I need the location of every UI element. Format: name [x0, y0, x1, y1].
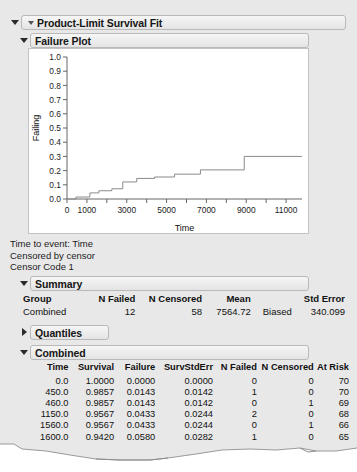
combined-title: Combined — [35, 347, 86, 359]
combined-cell-failure: 0.0433 — [114, 409, 155, 420]
disclosure-triangle-icon[interactable] — [19, 278, 30, 289]
summary-cell-n-failed: 12 — [85, 306, 136, 317]
summary-cell-bias-note: Biased — [251, 306, 292, 317]
combined-cell-survival: 0.9567 — [69, 420, 115, 431]
summary-header-mean: Mean — [202, 293, 251, 306]
summary-header-n-censored: N Censored — [135, 293, 202, 306]
table-row: 1560.00.95670.04330.02440166 — [23, 420, 349, 431]
table-row: 1150.00.95670.04330.02442068 — [23, 409, 349, 420]
combined-cell-n-censored: 1 — [257, 397, 314, 408]
svg-text:0.9: 0.9 — [49, 66, 61, 76]
section-combined[interactable]: Combined — [19, 345, 309, 360]
svg-text:Failing: Failing — [31, 115, 41, 142]
section-summary[interactable]: Summary — [19, 276, 309, 291]
combined-table-body: 0.01.00000.00000.00000070450.00.98570.01… — [23, 375, 349, 442]
combined-cell-n-censored: 0 — [257, 386, 314, 397]
summary-title: Summary — [35, 278, 82, 290]
combined-cell-survival: 1.0000 — [69, 375, 115, 386]
svg-text:0: 0 — [65, 205, 70, 215]
svg-text:0.0: 0.0 — [49, 194, 61, 204]
svg-text:11000: 11000 — [275, 205, 298, 215]
disclosure-triangle-icon[interactable] — [19, 347, 30, 358]
disclosure-triangle-icon[interactable] — [10, 17, 21, 28]
svg-text:0.2: 0.2 — [49, 166, 61, 176]
table-row: 1600.00.94200.05800.02821065 — [23, 431, 349, 442]
combined-cell-at-risk: 65 — [314, 431, 349, 442]
section-product-limit-survival-fit[interactable]: Product-Limit Survival Fit — [10, 15, 346, 30]
combined-cell-n-censored: 0 — [257, 431, 314, 442]
combined-cell-survival: 0.9857 — [69, 386, 115, 397]
combined-cell-failure: 0.0000 — [114, 375, 155, 386]
combined-header-row: TimeSurvivalFailureSurvStdErrN FailedN C… — [23, 362, 349, 375]
table-row: 460.00.98570.01430.01420169 — [23, 397, 349, 408]
failure-plot-title-bar[interactable]: Failure Plot — [30, 33, 309, 48]
combined-cell-at-risk: 69 — [314, 397, 349, 408]
combined-cell-time: 450.0 — [23, 386, 69, 397]
caption-censor-code: Censor Code 1 — [10, 261, 95, 273]
combined-header-at-risk: At Risk — [314, 362, 349, 375]
summary-table: Group N Failed N Censored Mean Std Error… — [23, 293, 345, 317]
summary-header-group: Group — [23, 293, 85, 306]
combined-cell-at-risk: 66 — [314, 420, 349, 431]
svg-text:0.7: 0.7 — [49, 95, 61, 105]
table-row: Combined 12 58 7564.72 Biased 340.099 — [23, 306, 345, 317]
combined-cell-at-risk: 68 — [314, 409, 349, 420]
combined-cell-n-failed: 0 — [213, 420, 257, 431]
svg-text:0.3: 0.3 — [49, 152, 61, 162]
failure-plot-title: Failure Plot — [35, 35, 91, 47]
disclosure-triangle-icon[interactable] — [19, 327, 30, 338]
summary-title-bar[interactable]: Summary — [30, 276, 309, 291]
summary-header-std-error: Std Error — [292, 293, 345, 306]
secondary-disclosure-triangle-icon[interactable] — [26, 17, 37, 28]
combined-cell-time: 1150.0 — [23, 409, 69, 420]
svg-text:Time: Time — [175, 223, 195, 233]
summary-cell-mean: 7564.72 — [202, 306, 251, 317]
combined-cell-survstderr: 0.0244 — [155, 420, 213, 431]
combined-cell-n-censored: 0 — [257, 375, 314, 386]
section-quantiles[interactable]: Quantiles — [19, 325, 109, 340]
combined-header-n-censored: N Censored — [257, 362, 314, 375]
combined-cell-survival: 0.9420 — [69, 431, 115, 442]
svg-text:0.5: 0.5 — [49, 123, 61, 133]
combined-cell-at-risk: 70 — [314, 386, 349, 397]
combined-cell-survstderr: 0.0244 — [155, 409, 213, 420]
combined-header-time: Time — [23, 362, 69, 375]
torn-paper-edge — [0, 438, 357, 472]
table-row: 0.01.00000.00000.00000070 — [23, 375, 349, 386]
svg-text:3000: 3000 — [117, 205, 136, 215]
summary-cell-group: Combined — [23, 306, 85, 317]
svg-text:0.6: 0.6 — [49, 109, 61, 119]
summary-cell-std-error: 340.099 — [292, 306, 345, 317]
combined-cell-survival: 0.9567 — [69, 409, 115, 420]
combined-header-failure: Failure — [114, 362, 155, 375]
jmp-report-panel: Product-Limit Survival Fit Failure Plot … — [0, 0, 357, 472]
svg-text:0.1: 0.1 — [49, 180, 61, 190]
svg-text:1000: 1000 — [78, 205, 97, 215]
svg-text:5000: 5000 — [157, 205, 176, 215]
summary-cell-n-censored: 58 — [135, 306, 202, 317]
combined-header-survival: Survival — [69, 362, 115, 375]
summary-header-row: Group N Failed N Censored Mean Std Error — [23, 293, 345, 306]
combined-cell-survstderr: 0.0282 — [155, 431, 213, 442]
combined-cell-n-failed: 0 — [213, 375, 257, 386]
combined-cell-failure: 0.0143 — [114, 397, 155, 408]
svg-text:7000: 7000 — [197, 205, 216, 215]
section-title-bar[interactable]: Product-Limit Survival Fit — [21, 15, 346, 30]
panel-title: Product-Limit Survival Fit — [37, 17, 162, 29]
combined-table: TimeSurvivalFailureSurvStdErrN FailedN C… — [23, 362, 349, 442]
combined-cell-time: 0.0 — [23, 375, 69, 386]
disclosure-triangle-icon[interactable] — [19, 35, 30, 46]
svg-text:0.8: 0.8 — [49, 81, 61, 91]
section-failure-plot[interactable]: Failure Plot — [19, 33, 309, 48]
combined-cell-time: 460.0 — [23, 397, 69, 408]
combined-cell-survival: 0.9857 — [69, 397, 115, 408]
combined-title-bar[interactable]: Combined — [30, 345, 309, 360]
combined-cell-failure: 0.0143 — [114, 386, 155, 397]
table-row: 450.00.98570.01430.01421070 — [23, 386, 349, 397]
plot-captions: Time to event: Time Censored by censor C… — [10, 238, 95, 273]
quantiles-title: Quantiles — [35, 327, 82, 339]
combined-cell-survstderr: 0.0142 — [155, 386, 213, 397]
combined-cell-n-failed: 0 — [213, 397, 257, 408]
quantiles-title-bar[interactable]: Quantiles — [30, 325, 109, 340]
failure-plot-canvas: 0.00.10.20.30.40.50.60.70.80.91.00100030… — [28, 48, 309, 234]
